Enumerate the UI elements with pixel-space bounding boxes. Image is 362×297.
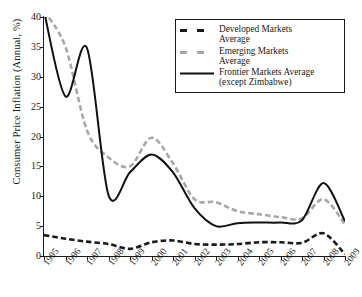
y-axis-title: Consumer Price Inflation (Annual, %) <box>11 0 22 222</box>
legend-label-line2: Average <box>219 34 292 44</box>
legend-item: Frontier Markets Average(except Zimbabwe… <box>179 67 340 88</box>
legend-item: Developed MarketsAverage <box>179 24 340 45</box>
y-tick-label: 15 <box>31 161 41 171</box>
legend-label-line1: Developed Markets <box>219 24 292 34</box>
legend-label: Frontier Markets Average(except Zimbabwe… <box>219 67 314 88</box>
legend-label: Developed MarketsAverage <box>219 24 292 45</box>
legend-item: Emerging MarketsAverage <box>179 46 340 67</box>
legend-label-line1: Emerging Markets <box>219 46 288 56</box>
legend-label-line1: Frontier Markets Average <box>219 67 314 77</box>
dashed-gray-line-sample <box>179 46 215 59</box>
y-tick-label: 40 <box>31 12 41 22</box>
y-tick-label: 25 <box>31 102 41 112</box>
chart-legend: Developed MarketsAverageEmerging Markets… <box>175 19 345 93</box>
legend-label-line2: Average <box>219 56 288 66</box>
y-tick-label: 10 <box>31 191 41 201</box>
x-tick-label: 2009 <box>343 247 362 268</box>
y-tick-label: 0 <box>36 251 41 261</box>
series-line <box>44 233 345 254</box>
y-tick-label: 5 <box>36 221 41 231</box>
legend-label-line2: (except Zimbabwe) <box>219 77 314 87</box>
solid-line-sample <box>179 67 215 80</box>
dashed-dark-line-sample <box>179 24 215 37</box>
y-tick-label: 35 <box>31 42 41 52</box>
y-tick-label: 30 <box>31 72 41 82</box>
legend-label: Emerging MarketsAverage <box>219 46 288 67</box>
y-tick-label: 20 <box>31 132 41 142</box>
